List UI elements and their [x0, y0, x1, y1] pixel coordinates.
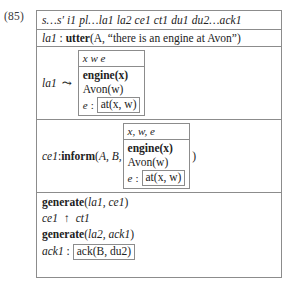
ce1-drs-condition-0: engine(x) — [128, 141, 186, 155]
ce1-drs-event-condition: e : at(x, w) — [128, 170, 186, 186]
la1-drs-event-condition: e : at(x, w) — [83, 97, 141, 113]
generate-1-predicate: generate — [42, 196, 84, 208]
inform-arguments: A, B, — [99, 149, 122, 163]
la1-event-boxed-condition: at(x, w) — [97, 97, 141, 113]
generate-1-close-paren: ) — [124, 196, 128, 208]
ack-label: ack1 — [42, 245, 64, 257]
ce1-drs-universe: x, w, e — [124, 124, 190, 140]
la1-drs-line: la1 ⤳ x w e engine(x) Avon(w) e : — [42, 50, 277, 116]
ce1-nested-drs-box: x, w, e engine(x) Avon(w) e : at(x, w) — [123, 123, 191, 189]
la1-drs-condition-0-text: engine(x) — [83, 69, 128, 81]
la1-drs-condition-0: engine(x) — [83, 68, 141, 82]
inform-condition-row: ce1 : inform(A, B, x, w, e engine(x) Avo… — [37, 120, 281, 193]
ce1-event-boxed-condition: at(x, w) — [142, 170, 186, 186]
la1-drs-universe: x w e — [79, 51, 145, 67]
inform-close-paren: ) — [190, 149, 196, 163]
utter-predicate: utter — [66, 32, 90, 44]
dominance-row: ce1↑ct1 — [37, 210, 281, 226]
drs-figure: (85) s…s′ i1 pl…la1 la2 ce1 ct1 du1 du2…… — [0, 0, 290, 288]
la1-nested-drs-box: x w e engine(x) Avon(w) e : at(x, w) — [78, 50, 146, 116]
utter-colon: : — [57, 32, 66, 44]
generate-1-row: generate(la1, ce1) — [37, 193, 281, 210]
la1-drs-condition-1-text: Avon(w) — [83, 83, 124, 95]
dominance-right: ct1 — [76, 212, 90, 224]
utter-arguments: A, “there is an engine at Avon” — [94, 32, 237, 44]
ack-row: ack1 : ack(B, du2) — [37, 242, 281, 261]
ce1-event-variable: e — [128, 171, 136, 185]
generate-2-row: generate(la2, ack1) — [37, 226, 281, 242]
generate-2-predicate: generate — [42, 228, 84, 240]
inform-predicate: inform — [61, 149, 95, 163]
la1-drs-conditions: engine(x) Avon(w) e : at(x, w) — [79, 67, 145, 115]
ce1-drs-condition-0-text: engine(x) — [128, 142, 173, 154]
generate-2-close-paren: ) — [130, 228, 134, 240]
squiggle-arrow-icon: ⤳ — [60, 76, 78, 90]
ce1-drs-conditions: engine(x) Avon(w) e : at(x, w) — [124, 140, 190, 188]
generate-2-arguments: la2, ack1 — [88, 228, 130, 240]
la1-drs-label: la1 — [42, 76, 60, 90]
ce1-drs-condition-1: Avon(w) — [128, 155, 186, 169]
la1-drs-row: la1 ⤳ x w e engine(x) Avon(w) e : — [37, 47, 281, 120]
outer-drs-box: s…s′ i1 pl…la1 la2 ce1 ct1 du1 du2…ack1 … — [36, 10, 282, 278]
inform-line: ce1 : inform(A, B, x, w, e engine(x) Avo… — [42, 123, 277, 189]
la1-event-variable: e — [83, 98, 91, 112]
generate-1-arguments: la1, ce1 — [88, 196, 124, 208]
ack-colon: : — [64, 245, 73, 257]
universe-row: s…s′ i1 pl…la1 la2 ce1 ct1 du1 du2…ack1 — [37, 11, 281, 30]
equation-number: (85) — [4, 10, 24, 22]
dominance-left: ce1 — [42, 212, 58, 224]
up-arrow-icon: ↑ — [58, 212, 76, 224]
utter-label: la1 — [42, 32, 57, 44]
ce1-drs-condition-1-text: Avon(w) — [128, 156, 169, 168]
la1-drs-condition-1: Avon(w) — [83, 82, 141, 96]
utter-condition-row: la1 : utter(A, “there is an engine at Av… — [37, 30, 281, 47]
ack-boxed-condition: ack(B, du2) — [73, 244, 135, 260]
inform-label: ce1 — [42, 149, 58, 163]
utter-close-paren: ) — [237, 32, 241, 44]
